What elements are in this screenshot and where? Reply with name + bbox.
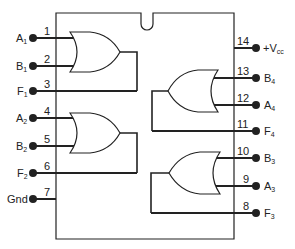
- pin-number: 12: [237, 93, 249, 104]
- pin-number: 11: [237, 119, 248, 130]
- pin-5-lead: [30, 143, 76, 149]
- pin-number: 8: [243, 201, 249, 212]
- pin-number: 14: [237, 36, 249, 47]
- pin-label-a2: A2: [16, 113, 27, 125]
- gate-2-output-wire: [120, 133, 137, 173]
- pin-7-lead: [30, 196, 56, 202]
- pin-number: 3: [44, 79, 50, 90]
- pin-label-b4: B4: [264, 73, 275, 85]
- pin-label-a4: A4: [264, 100, 275, 112]
- or-gate-3: [169, 152, 220, 194]
- or-gate-1: [70, 32, 120, 72]
- ic-pinout-diagram: [0, 0, 295, 249]
- gate-1-output-wire: [120, 52, 137, 91]
- pin-number: 6: [44, 161, 50, 172]
- pin-number: 4: [44, 106, 50, 117]
- or-gate-2: [70, 113, 120, 153]
- pin-number: 9: [243, 174, 249, 185]
- pin-9-lead: [214, 183, 259, 189]
- pin-2-lead: [30, 63, 76, 69]
- pin-number: 2: [44, 54, 50, 65]
- pin-label-f2: F2: [17, 168, 28, 180]
- pin-label-f3: F3: [264, 208, 275, 220]
- pin-label-f4: F4: [264, 126, 275, 138]
- pin-number: 1: [44, 26, 50, 37]
- or-gate-4: [168, 70, 218, 112]
- pin-1-lead: [30, 35, 76, 41]
- pin-label-a1: A1: [16, 33, 27, 45]
- gate-3-output-wire: [151, 173, 169, 213]
- gate-4-output-wire: [152, 91, 168, 131]
- pin-4-lead: [30, 115, 76, 121]
- pin-label-vcc: +Vcc: [263, 43, 284, 55]
- pin-label-gnd: Gnd: [7, 194, 28, 206]
- pin-label-a3: A3: [264, 181, 275, 193]
- pin-label-f1: F1: [17, 86, 28, 98]
- pin-label-b1: B1: [16, 61, 27, 73]
- pin-number: 13: [237, 66, 249, 77]
- pin-number: 5: [44, 134, 50, 145]
- pin-label-b3: B3: [264, 153, 275, 165]
- pin-label-b2: B2: [16, 141, 27, 153]
- pin-number: 7: [44, 187, 50, 198]
- pin-number: 10: [237, 146, 249, 157]
